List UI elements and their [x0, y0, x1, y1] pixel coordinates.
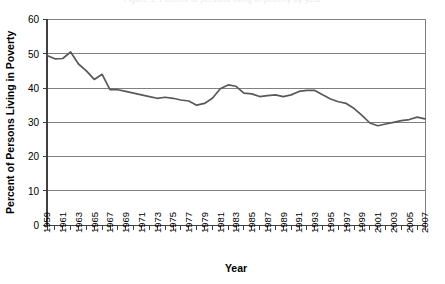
x-tick-label: 1973	[152, 212, 163, 233]
x-tick-label: 1965	[89, 212, 100, 233]
y-tick-label: 10	[28, 186, 40, 197]
y-axis-title: Percent of Persons Living in Poverty	[4, 31, 16, 214]
x-tick-labels: 1959196119631965196719691971197319751977…	[41, 212, 430, 233]
x-tick-label: 2007	[419, 212, 430, 233]
y-tick-label: 50	[28, 49, 40, 60]
x-tick-label: 1975	[167, 212, 178, 233]
x-tick-label: 2005	[404, 212, 415, 233]
y-tickmarks	[43, 19, 48, 225]
y-tick-label: 0	[33, 220, 39, 231]
x-tick-label: 2001	[372, 212, 383, 233]
x-tick-label: 1971	[136, 212, 147, 233]
x-tick-label: 1995	[325, 212, 336, 233]
x-tick-label: 1959	[41, 212, 52, 233]
x-tick-label: 1987	[262, 212, 273, 233]
x-tick-label: 1961	[57, 212, 68, 233]
x-tick-label: 1991	[293, 212, 304, 233]
x-tick-label: 1967	[104, 212, 115, 233]
x-tick-label: 1983	[230, 212, 241, 233]
y-tick-labels: 60 50 40 30 20 10 0	[28, 14, 40, 231]
chart-canvas: 60 50 40 30 20 10 0 Percent of Persons L…	[0, 0, 445, 284]
gridlines	[47, 19, 425, 191]
x-tick-label: 1977	[183, 212, 194, 233]
x-tick-label: 1981	[215, 212, 226, 233]
x-tick-label: 1997	[341, 212, 352, 233]
x-tick-label: 1989	[278, 212, 289, 233]
poverty-line-chart-figure: Figure 1. Percent of persons living in p…	[0, 0, 445, 284]
y-tick-label: 40	[28, 83, 40, 94]
x-tick-label: 1985	[246, 212, 257, 233]
poverty-series-line	[47, 52, 425, 126]
x-tick-label: 1999	[356, 212, 367, 233]
x-tick-label: 1963	[73, 212, 84, 233]
y-tick-label: 60	[28, 14, 40, 25]
x-tick-label: 1979	[199, 212, 210, 233]
x-tick-label: 1993	[309, 212, 320, 233]
x-tick-label: 1969	[120, 212, 131, 233]
y-tick-label: 30	[28, 117, 40, 128]
y-tick-label: 20	[28, 151, 40, 162]
x-tick-label: 2003	[388, 212, 399, 233]
x-axis-title: Year	[225, 262, 247, 274]
